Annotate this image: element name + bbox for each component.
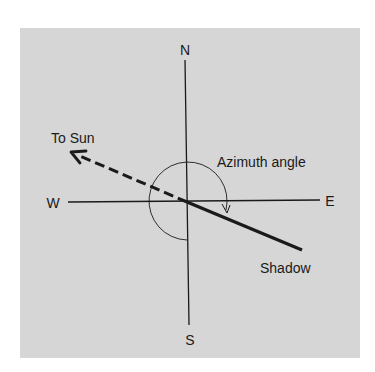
shadow-label: Shadow: [260, 260, 311, 276]
to-sun-label: To Sun: [51, 130, 95, 146]
south-label: S: [185, 332, 194, 348]
east-label: E: [325, 193, 334, 209]
shadow-line: [187, 202, 302, 250]
azimuth-angle-label: Azimuth angle: [217, 154, 306, 170]
west-label: W: [46, 195, 60, 211]
east-west-axis: [68, 200, 320, 202]
sun-direction-line: [80, 156, 187, 202]
north-label: N: [180, 42, 190, 58]
north-south-axis: [185, 60, 189, 325]
azimuth-diagram: N S W E To Sun Azimuth angle Shadow: [0, 0, 375, 372]
